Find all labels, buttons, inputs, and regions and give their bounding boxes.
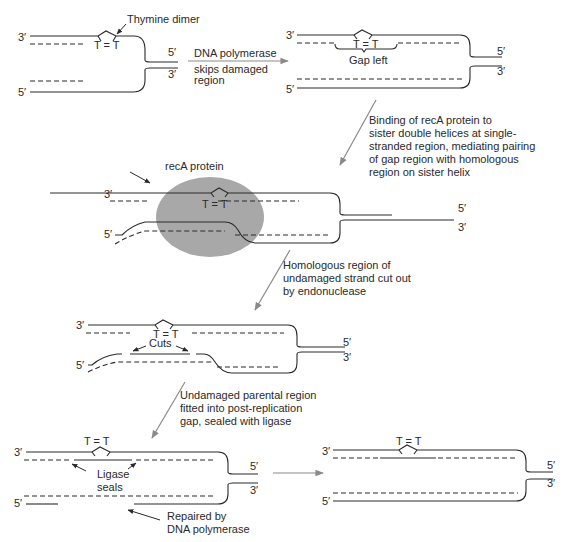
step-3-text: Homologous region of — [283, 259, 392, 271]
step-1-text: region — [194, 74, 225, 86]
end-label-5prime: 5′ — [458, 202, 466, 214]
end-label-5prime: 5′ — [547, 459, 555, 471]
diagram-canvas: 3′ 5′ T = T Thymine dimer 5′ 3′ DNA poly… — [0, 0, 569, 542]
end-label-3prime: 3′ — [343, 351, 351, 363]
step-2-text: Binding of recA protein to — [369, 114, 492, 126]
sister-parental-right — [196, 352, 345, 373]
end-label-5prime: 5′ — [14, 497, 22, 509]
end-label-5prime: 5′ — [343, 336, 351, 348]
end-label-5prime: 5′ — [497, 45, 505, 57]
end-label-3prime: 3′ — [286, 29, 294, 41]
cuts-label: Cuts — [149, 337, 172, 349]
parental-strand-bottom-right — [134, 483, 258, 504]
end-label-3prime: 3′ — [168, 68, 176, 80]
end-label-3prime: 3′ — [547, 477, 555, 489]
step-2-text: of gap region with homologous — [369, 153, 519, 165]
end-label-3prime: 3′ — [104, 188, 112, 200]
step-4-text: gap, sealed with ligase — [180, 415, 291, 427]
parental-strand-bottom — [297, 66, 502, 88]
thymine-dimer-pointer — [117, 24, 126, 34]
lesion-label: T = T — [353, 38, 379, 50]
step-3-text: by endonuclease — [283, 285, 366, 297]
parental-strand-bottom — [30, 68, 178, 92]
end-label-5prime: 5′ — [168, 46, 176, 58]
repaired-label: Repaired by — [167, 510, 227, 522]
end-label-5prime: 5′ — [322, 495, 330, 507]
step-1-text: DNA polymerase — [194, 47, 277, 59]
panel-6-repaired-helix: T = T 3′ 5′ 5′ 3′ — [322, 435, 555, 507]
lesion-label: T = T — [84, 435, 110, 447]
gap-left-label: Gap left — [349, 54, 388, 66]
end-label-5prime: 5′ — [18, 86, 26, 98]
repaired-label: DNA polymerase — [167, 523, 250, 535]
step-4-text: Undamaged parental region — [180, 389, 316, 401]
end-label-3prime: 3′ — [14, 446, 22, 458]
end-label-3prime: 3′ — [322, 445, 330, 457]
step-2-text: stranded region, mediating pairing — [369, 140, 535, 152]
step-2-text: sister double helices at single- — [369, 127, 517, 139]
end-label-3prime: 3′ — [497, 65, 505, 77]
step-4-text: fitted into post-replication — [180, 402, 302, 414]
recA-protein-label: recA protein — [165, 160, 224, 172]
repair-pointer — [128, 510, 160, 520]
lesion-label: T = T — [202, 198, 228, 210]
recA-protein-blob — [156, 177, 264, 257]
ligase-seals-label: seals — [97, 481, 123, 493]
cut-pointer-right — [176, 346, 188, 351]
cut-pointer-left — [133, 346, 146, 351]
step-3-text: undamaged strand cut out — [283, 272, 411, 284]
lesion-label: T = T — [94, 39, 120, 51]
end-label-5prime: 5′ — [104, 228, 112, 240]
end-label-3prime: 3′ — [250, 484, 258, 496]
panel-1-replication-fork: 3′ 5′ T = T Thymine dimer 5′ 3′ — [18, 13, 200, 98]
dimer-bond — [92, 452, 110, 456]
end-label-3prime: 3′ — [18, 31, 26, 43]
parental-strand-bottom — [333, 479, 553, 501]
lesion-label: T = T — [396, 435, 422, 447]
panel-5-ligase-sealed: T = T 3′ Ligase seals 5′ 5′ 3′ Repaired … — [14, 435, 258, 535]
end-label-3prime: 3′ — [458, 221, 466, 233]
end-label-5prime: 5′ — [76, 359, 84, 371]
thymine-dimer-label: Thymine dimer — [127, 13, 200, 25]
ligase-pointer-left — [72, 464, 86, 471]
step-2-text: region on sister helix — [369, 166, 470, 178]
recA-pointer — [130, 172, 150, 183]
end-label-5prime: 5′ — [286, 83, 294, 95]
sister-daughter-strand — [88, 362, 212, 372]
end-label-5prime: 5′ — [250, 460, 258, 472]
panel-2-gap-left: 3′ 5′ T = T Gap left 5′ 3′ — [286, 29, 505, 95]
dimer-bond — [399, 450, 417, 454]
panel-4-endonuclease-cuts: 3′ T = T Cuts 5′ 5′ 3′ — [76, 319, 351, 373]
ligase-seals-label: Ligase — [97, 468, 129, 480]
end-label-3prime: 3′ — [76, 319, 84, 331]
sister-parental-left — [88, 354, 122, 365]
